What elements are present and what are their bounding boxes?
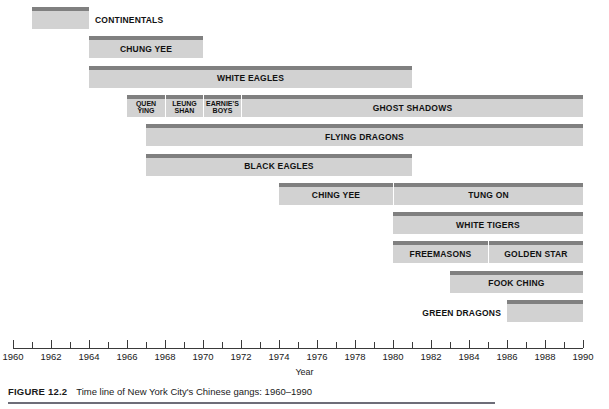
- figure-caption-text: Time line of New York City's Chinese gan…: [76, 386, 312, 397]
- axis-tick-label: 1980: [382, 351, 403, 362]
- axis-tick-major: [13, 340, 14, 348]
- axis-tick-minor: [146, 342, 147, 348]
- axis-tick-label: 1970: [192, 351, 213, 362]
- axis-tick-minor: [412, 342, 413, 348]
- axis-tick-minor: [374, 342, 375, 348]
- axis-tick-minor: [450, 342, 451, 348]
- axis-tick-major: [393, 340, 394, 348]
- gang-bar[interactable]: QUENYING: [127, 95, 165, 117]
- axis-tick-major: [165, 340, 166, 348]
- gang-bar[interactable]: CHUNG YEE: [89, 36, 203, 58]
- axis-title: Year: [0, 367, 609, 377]
- axis-tick-label: 1962: [40, 351, 61, 362]
- axis-tick-label: 1986: [496, 351, 517, 362]
- timeline-row: CONTINENTALS: [0, 7, 609, 29]
- axis-tick-label: 1972: [230, 351, 251, 362]
- gang-bar[interactable]: FREEMASONS: [393, 241, 488, 263]
- timeline-row: CHING YEETUNG ON: [0, 183, 609, 205]
- timeline-row: FLYING DRAGONS: [0, 124, 609, 146]
- axis-tick-minor: [336, 342, 337, 348]
- gang-bar-label: CONTINENTALS: [95, 11, 163, 29]
- gang-bar-label: CHING YEE: [279, 187, 393, 205]
- gang-bar-label: TUNG ON: [394, 187, 583, 205]
- axis-tick-major: [545, 340, 546, 348]
- axis-tick-label: 1966: [116, 351, 137, 362]
- year-axis: Year 19601962196419661968197019721974197…: [0, 336, 609, 382]
- gang-bar-label: GHOST SHADOWS: [242, 99, 583, 117]
- axis-tick-minor: [298, 342, 299, 348]
- figure-container: CONTINENTALSCHUNG YEEWHITE EAGLESQUENYIN…: [0, 0, 609, 409]
- axis-tick-major: [241, 340, 242, 348]
- gang-bar[interactable]: EARNIE'SBOYS: [203, 95, 241, 117]
- gang-bar-label: WHITE EAGLES: [89, 70, 412, 88]
- axis-tick-major: [507, 340, 508, 348]
- figure-caption: FIGURE 12.2 Time line of New York City's…: [8, 386, 601, 401]
- axis-tick-major: [51, 340, 52, 348]
- axis-tick-major: [469, 340, 470, 348]
- axis-tick-major: [355, 340, 356, 348]
- caption-divider: [8, 402, 495, 404]
- gang-bar[interactable]: TUNG ON: [393, 183, 583, 205]
- axis-tick-minor: [564, 342, 565, 348]
- axis-tick-minor: [32, 342, 33, 348]
- timeline-row: FOOK CHING: [0, 271, 609, 293]
- timeline-plot-area: CONTINENTALSCHUNG YEEWHITE EAGLESQUENYIN…: [0, 0, 609, 330]
- gang-bar-label: GREEN DRAGONS: [422, 304, 507, 322]
- axis-tick-minor: [222, 342, 223, 348]
- axis-tick-minor: [488, 342, 489, 348]
- timeline-row: BLACK EAGLES: [0, 154, 609, 176]
- gang-bar[interactable]: WHITE TIGERS: [393, 212, 583, 234]
- gang-bar[interactable]: LEUNGSHAN: [165, 95, 203, 117]
- axis-tick-major: [89, 340, 90, 348]
- axis-tick-major: [279, 340, 280, 348]
- axis-tick-label: 1976: [306, 351, 327, 362]
- gang-bar[interactable]: CHING YEE: [279, 183, 393, 205]
- axis-tick-label: 1984: [458, 351, 479, 362]
- axis-tick-label: 1960: [2, 351, 23, 362]
- gang-bar-label: FLYING DRAGONS: [146, 128, 583, 146]
- timeline-row: WHITE TIGERS: [0, 212, 609, 234]
- gang-bar-label: BLACK EAGLES: [146, 158, 412, 176]
- axis-tick-label: 1988: [534, 351, 555, 362]
- axis-tick-major: [127, 340, 128, 348]
- gang-bar-label: FREEMASONS: [393, 245, 488, 263]
- timeline-row: CHUNG YEE: [0, 36, 609, 58]
- axis-tick-major: [317, 340, 318, 348]
- axis-tick-minor: [260, 342, 261, 348]
- gang-bar[interactable]: [32, 7, 89, 29]
- timeline-row: GREEN DRAGONS: [0, 300, 609, 322]
- gang-bar[interactable]: FLYING DRAGONS: [146, 124, 583, 146]
- gang-bar-label: GOLDEN STAR: [489, 245, 583, 263]
- axis-tick-label: 1964: [78, 351, 99, 362]
- gang-bar-label: CHUNG YEE: [89, 40, 203, 58]
- axis-tick-minor: [184, 342, 185, 348]
- gang-bar-label: QUENYING: [127, 98, 165, 117]
- axis-line: [13, 348, 583, 349]
- gang-bar[interactable]: GOLDEN STAR: [488, 241, 583, 263]
- gang-bar[interactable]: [507, 300, 583, 322]
- axis-tick-label: 1968: [154, 351, 175, 362]
- gang-bar[interactable]: BLACK EAGLES: [146, 154, 412, 176]
- axis-tick-major: [203, 340, 204, 348]
- axis-tick-minor: [70, 342, 71, 348]
- gang-bar-label: EARNIE'SBOYS: [204, 98, 241, 117]
- axis-tick-label: 1982: [420, 351, 441, 362]
- timeline-row: QUENYINGLEUNGSHANEARNIE'SBOYSGHOST SHADO…: [0, 95, 609, 117]
- axis-tick-minor: [108, 342, 109, 348]
- axis-tick-major: [431, 340, 432, 348]
- gang-bar-label: FOOK CHING: [450, 275, 583, 293]
- gang-bar[interactable]: WHITE EAGLES: [89, 66, 412, 88]
- axis-tick-minor: [526, 342, 527, 348]
- axis-tick-major: [583, 340, 584, 348]
- gang-bar[interactable]: FOOK CHING: [450, 271, 583, 293]
- figure-number: FIGURE 12.2: [8, 386, 67, 397]
- timeline-row: WHITE EAGLES: [0, 66, 609, 88]
- axis-tick-label: 1990: [572, 351, 593, 362]
- gang-bar-label: LEUNGSHAN: [166, 98, 203, 117]
- axis-tick-label: 1978: [344, 351, 365, 362]
- gang-bar-label: WHITE TIGERS: [393, 216, 583, 234]
- gang-bar[interactable]: GHOST SHADOWS: [241, 95, 583, 117]
- timeline-row: FREEMASONSGOLDEN STAR: [0, 241, 609, 263]
- axis-tick-label: 1974: [268, 351, 289, 362]
